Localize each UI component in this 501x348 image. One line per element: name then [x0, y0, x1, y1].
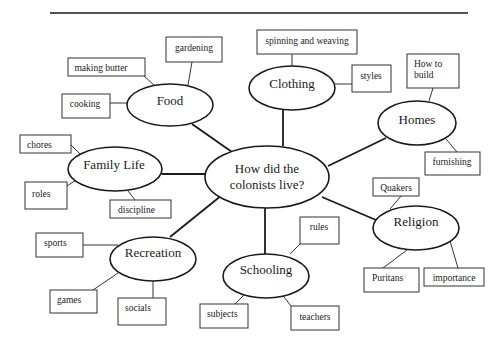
leaf-chores: chores: [20, 135, 71, 153]
connector-rules: [290, 244, 300, 254]
topic-religion: Religion: [373, 206, 459, 250]
topic-food: Food: [127, 84, 213, 126]
center-text-line1: How did the: [235, 161, 300, 176]
leaf-sports: sports: [36, 233, 83, 257]
connector-gardening: [188, 62, 192, 85]
leaf-spinning-and-weaving: spinning and weaving: [257, 30, 357, 54]
connector-puritans: [383, 250, 407, 268]
connector-chores: [71, 145, 80, 154]
leaf-furnishing: furnishing: [425, 152, 480, 175]
puritans-label: Puritans: [372, 273, 403, 283]
roles-label: roles: [32, 189, 51, 199]
teachers-label: teachers: [299, 312, 330, 322]
center-text-line2: colonists live?: [230, 177, 305, 192]
connector-teachers: [284, 297, 291, 306]
connector-how-to-build: [429, 88, 433, 101]
center-node: How did the colonists live?: [205, 146, 329, 208]
religion-label: Religion: [394, 214, 439, 229]
leaf-discipline: discipline: [110, 200, 171, 218]
cooking-label: cooking: [70, 99, 101, 109]
schooling-label: Schooling: [240, 262, 293, 277]
family-life-label: Family Life: [83, 157, 145, 172]
quakers-label: Quakers: [380, 183, 412, 193]
leaf-games: games: [50, 290, 97, 313]
styles-label: styles: [360, 71, 382, 81]
spoke-homes: [328, 138, 386, 166]
games-label: games: [57, 295, 82, 305]
leaf-importance: importance: [424, 268, 484, 286]
spoke-recreation: [170, 195, 222, 237]
connector-discipline: [128, 191, 135, 200]
topic-recreation: Recreation: [110, 237, 196, 281]
sports-label: sports: [44, 238, 67, 248]
leaf-puritans: Puritans: [364, 268, 419, 292]
rules-label: rules: [310, 222, 329, 232]
leaf-quakers: Quakers: [373, 178, 419, 196]
clothing-label: Clothing: [269, 76, 315, 91]
leaf-roles: roles: [25, 182, 67, 209]
connector-importance: [450, 241, 458, 268]
gardening-label: gardening: [175, 43, 213, 53]
topic-clothing: Clothing: [249, 66, 335, 110]
leaf-making-butter: making butter: [68, 58, 145, 76]
chores-label: chores: [27, 140, 52, 150]
topic-family-life: Family Life: [68, 147, 162, 191]
topic-homes: Homes: [378, 101, 456, 145]
leaf-subjects: subjects: [200, 304, 248, 328]
socials-label: socials: [125, 303, 151, 313]
connector-games: [93, 273, 118, 290]
how-to-build-line2: build: [414, 70, 434, 80]
recreation-label: Recreation: [125, 245, 182, 260]
leaf-styles: styles: [352, 65, 391, 92]
how-to-build-line1: How to: [414, 59, 442, 69]
leaf-cooking: cooking: [62, 94, 110, 118]
leaf-socials: socials: [118, 298, 166, 325]
furnishing-label: furnishing: [432, 157, 471, 167]
making-butter-label: making butter: [74, 63, 128, 73]
leaf-rules: rules: [300, 217, 339, 244]
concept-map: How did the colonists live? Food gardeni…: [0, 0, 501, 348]
importance-label: importance: [433, 273, 476, 283]
homes-label: Homes: [399, 112, 436, 127]
leaf-gardening: gardening: [166, 37, 222, 62]
spinning-label: spinning and weaving: [265, 36, 349, 46]
topic-schooling: Schooling: [223, 254, 309, 298]
food-label: Food: [157, 93, 184, 108]
leaf-teachers: teachers: [291, 306, 339, 330]
connector-furnishing: [446, 139, 457, 152]
discipline-label: discipline: [118, 205, 155, 215]
connector-making-butter: [144, 76, 155, 86]
spoke-food: [192, 124, 232, 152]
subjects-label: subjects: [207, 309, 238, 319]
leaf-how-to-build: How to build: [407, 54, 459, 88]
